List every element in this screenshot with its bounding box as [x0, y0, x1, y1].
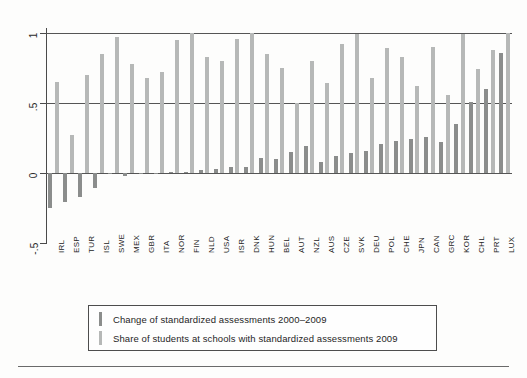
x-axis-label-GBR: GBR	[147, 235, 156, 253]
x-axis-label-AUT: AUT	[297, 236, 306, 253]
y-tick-2	[40, 173, 46, 174]
bar-change-DEU	[364, 151, 368, 173]
bar-share-DNK	[250, 33, 254, 173]
x-axis-label-ITA: ITA	[162, 240, 171, 253]
bar-share-ESP	[70, 135, 74, 173]
bar-share-ISR	[235, 39, 239, 173]
bar-change-FIN	[184, 172, 188, 173]
bar-share-CHL	[476, 69, 480, 173]
bar-change-SVK	[349, 153, 353, 173]
x-axis-label-CHL: CHL	[477, 236, 486, 253]
bar-change-NZL	[304, 146, 308, 173]
bar-change-IRL	[48, 173, 52, 208]
y-tick-label-3: -.5	[29, 243, 40, 255]
x-axis-label-POL: POL	[387, 236, 396, 253]
bar-share-IRL	[55, 82, 59, 173]
bar-share-NZL	[310, 61, 314, 173]
bar-change-ISR	[229, 167, 233, 173]
x-axis-label-TUR: TUR	[87, 236, 96, 253]
bar-share-TUR	[85, 75, 89, 173]
y-tick-label-wrap-0: 1	[0, 27, 34, 39]
x-axis-label-LUX: LUX	[507, 237, 516, 253]
bar-change-CHE	[394, 141, 398, 173]
legend-label-share: Share of students at schools with standa…	[113, 333, 398, 344]
bar-share-NLD	[205, 57, 209, 173]
bar-change-LUX	[499, 53, 503, 173]
x-axis-label-CZE: CZE	[342, 236, 351, 253]
bar-share-AUT	[295, 103, 299, 173]
x-axis-label-AUS: AUS	[327, 236, 336, 253]
bar-change-CHL	[469, 102, 473, 173]
x-axis-label-HUN: HUN	[267, 235, 276, 253]
bar-change-GRC	[439, 142, 443, 173]
bar-share-DEU	[370, 78, 374, 173]
x-axis-label-NLD: NLD	[207, 236, 216, 253]
bar-change-AUT	[289, 152, 293, 173]
y-tick-label-wrap-1: .5	[0, 97, 34, 109]
bar-share-CZE	[340, 44, 344, 173]
bar-change-SWE	[108, 173, 112, 174]
legend-label-change: Change of standardized assessments 2000–…	[113, 314, 327, 325]
bar-share-FIN	[190, 33, 194, 173]
bar-change-MEX	[123, 173, 127, 176]
y-tick-0	[40, 33, 46, 34]
bar-group	[46, 26, 512, 250]
bar-share-MEX	[130, 64, 134, 173]
bar-share-BEL	[280, 68, 284, 173]
bar-change-HUN	[259, 158, 263, 173]
plot-area	[46, 26, 512, 250]
bar-share-AUS	[325, 83, 329, 173]
bar-share-NOR	[175, 40, 179, 173]
y-tick-label-1: .5	[29, 103, 40, 112]
chart-legend: Change of standardized assessments 2000–…	[88, 305, 437, 351]
x-axis-label-USA: USA	[222, 236, 231, 253]
bar-change-TUR	[78, 173, 82, 197]
bar-share-CHE	[400, 57, 404, 173]
x-axis-label-ESP: ESP	[72, 236, 81, 253]
bar-share-LUX	[506, 33, 510, 173]
x-axis-label-DEU: DEU	[372, 235, 381, 253]
x-axis-label-IRL: IRL	[57, 240, 66, 253]
x-axis-label-CAN: CAN	[432, 235, 441, 253]
y-tick-label-2: 0	[29, 173, 40, 179]
x-axis-label-ISL: ISL	[102, 240, 111, 253]
bar-share-PRT	[491, 50, 495, 173]
chart-figure: 1.50-.5 IRLESPTURISLSWEMEXGBRITANORFINNL…	[0, 0, 527, 378]
x-axis-label-GRC: GRC	[447, 234, 456, 253]
x-axis-label-NOR: NOR	[177, 234, 186, 253]
bar-share-SWE	[115, 37, 119, 173]
bar-change-PRT	[484, 89, 488, 173]
bar-change-CAN	[424, 137, 428, 173]
bar-share-ISL	[100, 54, 104, 173]
x-axis-label-NZL: NZL	[312, 237, 321, 253]
y-tick-label-wrap-3: -.5	[0, 237, 34, 249]
bar-share-POL	[385, 48, 389, 173]
x-axis-label-SVK: SVK	[357, 236, 366, 253]
x-axis-label-ISR: ISR	[237, 239, 246, 253]
legend-item-share: Share of students at schools with standa…	[99, 330, 398, 346]
footer-rule	[18, 366, 509, 367]
bar-change-NOR	[169, 172, 173, 173]
bar-change-CZE	[334, 156, 338, 173]
bar-share-ITA	[160, 72, 164, 173]
legend-swatch-share-icon	[99, 331, 102, 345]
bar-share-GRC	[446, 95, 450, 173]
bar-change-GBR	[139, 173, 143, 174]
x-axis-label-CHE: CHE	[402, 235, 411, 253]
bar-share-GBR	[145, 78, 149, 173]
legend-item-change: Change of standardized assessments 2000–…	[99, 311, 327, 327]
x-axis-label-JPN: JPN	[417, 237, 426, 253]
bar-change-USA	[214, 169, 218, 173]
bar-change-BEL	[274, 159, 278, 173]
bar-change-ITA	[154, 173, 158, 174]
y-tick-label-wrap-2: 0	[0, 167, 34, 179]
bar-change-NLD	[199, 170, 203, 173]
bar-share-USA	[220, 61, 224, 173]
bar-change-ISL	[93, 173, 97, 188]
bar-share-JPN	[415, 86, 419, 173]
x-axis-label-BEL: BEL	[282, 237, 291, 253]
legend-swatch-change-icon	[99, 312, 102, 326]
bar-change-DNK	[244, 167, 248, 173]
y-tick-1	[40, 103, 46, 104]
x-axis-labels: IRLESPTURISLSWEMEXGBRITANORFINNLDUSAISRD…	[46, 253, 512, 299]
